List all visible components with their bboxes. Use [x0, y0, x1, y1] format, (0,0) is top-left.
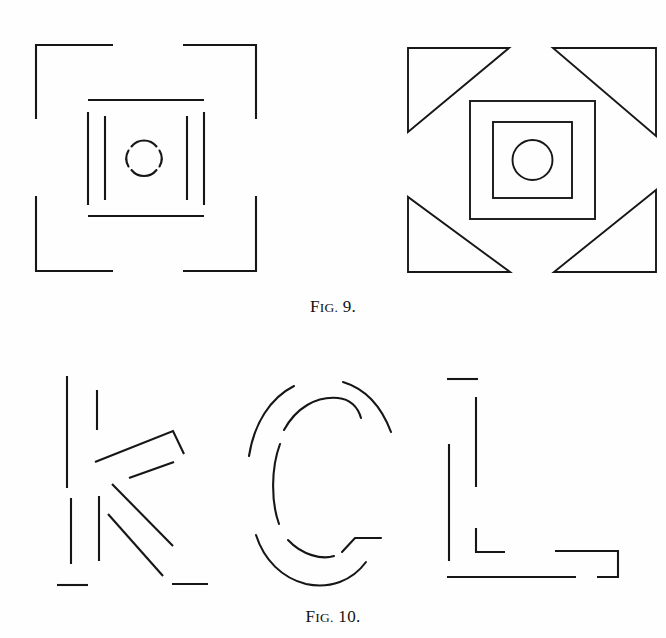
k-upper-arm-outer	[95, 431, 184, 462]
outer-nested-square	[470, 101, 595, 219]
figure-9-caption: FIG. 9.	[0, 297, 666, 317]
caption-9-lead: F	[310, 297, 320, 316]
c-inner-arc-lower	[288, 540, 334, 557]
fig9-left-panel	[0, 0, 320, 300]
bracket-bottom-right	[183, 196, 256, 271]
triangle-bottom-right	[554, 190, 656, 272]
triangles-nested-squares-diagram	[346, 0, 666, 300]
c-inner-arc-left	[273, 444, 280, 524]
k-strokes	[57, 376, 208, 585]
outer-corner-brackets	[36, 45, 256, 271]
l-inner-corner-bracket	[476, 528, 505, 552]
c-outer-arc-upper-left	[249, 386, 294, 456]
figure-10-caption: FIG. 10.	[0, 607, 666, 627]
c-inner-arc-top	[284, 398, 361, 430]
triangle-bottom-left	[408, 197, 510, 272]
caption-9-num-value: 9.	[343, 297, 356, 316]
k-lower-leg-outer	[112, 484, 173, 546]
circle-arc-bottom	[132, 170, 157, 176]
figure-9: FIG. 9.	[0, 0, 666, 330]
letter-k-fragments	[40, 368, 250, 608]
k-lower-leg-inner	[108, 514, 163, 576]
center-dashed-circle	[126, 140, 161, 176]
corner-triangles	[408, 48, 656, 272]
triangle-top-left	[408, 48, 509, 132]
circle-arc-left	[126, 151, 128, 167]
fig10-k-panel	[40, 368, 250, 608]
circle-arc-top	[132, 140, 157, 146]
letter-c-fragments	[238, 372, 438, 612]
fig9-right-panel	[346, 0, 666, 300]
caption-10-lead: F	[305, 607, 315, 626]
bracket-bottom-left	[36, 196, 113, 271]
l-right-terminal-bracket	[555, 551, 618, 577]
nested-squares	[470, 101, 595, 219]
caption-10-num-value: 10.	[338, 607, 360, 626]
bracket-top-left	[36, 45, 113, 119]
fig10-c-panel	[238, 372, 438, 612]
c-strokes	[249, 382, 391, 585]
c-inner-terminal-notch	[342, 538, 381, 552]
inner-nested-square	[493, 122, 572, 198]
fragmented-square-diagram	[0, 0, 320, 300]
k-upper-arm-inner	[129, 462, 174, 478]
letter-l-fragments	[430, 370, 640, 610]
figure-10: FIG. 10.	[0, 330, 666, 638]
inner-square-fragments	[88, 100, 204, 216]
c-outer-arc-upper-right	[343, 382, 391, 432]
caption-9-rest: IG	[320, 300, 335, 315]
center-circle	[513, 140, 553, 180]
scanned-page: FIG. 9.	[0, 0, 666, 638]
bracket-top-right	[183, 45, 256, 119]
l-strokes	[447, 379, 618, 577]
circle-arc-right	[160, 151, 162, 167]
caption-10-rest: IG	[315, 610, 330, 625]
fig10-l-panel	[430, 370, 640, 610]
